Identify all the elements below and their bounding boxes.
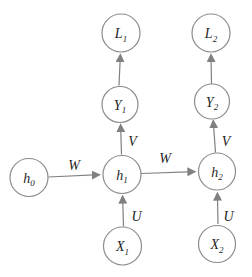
edge-x2-h2-arrow: [217, 193, 218, 224]
node-y1: Y1: [102, 87, 138, 123]
edge-h0-h1-arrow: [49, 175, 100, 177]
node-h1: h1: [103, 156, 141, 194]
edge-x1-h1-arrow: [123, 196, 124, 227]
nodes: L1 L2 Y1 Y2 h0 h1: [10, 14, 236, 265]
edge-h1-y1-arrow: [121, 125, 122, 155]
rnn-diagram: W W U U V V L1 L2 Y1 Y2: [0, 0, 252, 277]
edge-h2-y2-arrow: [213, 121, 215, 153]
edge-label-v1: V: [128, 134, 138, 149]
edge-y2-l2-arrow: [211, 55, 212, 85]
node-l2: L2: [192, 14, 230, 52]
rnn-diagram-canvas: W W U U V V L1 L2 Y1 Y2: [0, 0, 252, 277]
edge-h1-h2-arrow: [141, 172, 195, 174]
edge-label-w1: W: [68, 158, 81, 173]
node-h0: h0: [10, 159, 48, 197]
node-l1: L1: [102, 14, 140, 52]
node-x1: X1: [104, 227, 142, 265]
edge-label-u1: U: [131, 209, 142, 224]
edge-y1-l1-arrow: [119, 55, 120, 86]
node-h2: h2: [199, 153, 236, 190]
edge-label-v2: V: [222, 134, 232, 149]
node-y2: Y2: [195, 84, 230, 119]
node-x2: X2: [199, 226, 236, 263]
edge-label-w2: W: [159, 151, 172, 166]
edge-label-u2: U: [223, 209, 234, 224]
